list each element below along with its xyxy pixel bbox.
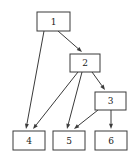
edge-line <box>92 72 102 86</box>
edge-2-to-5 <box>66 72 82 129</box>
edge-line <box>78 110 98 126</box>
graph-diagram: 123456 <box>0 0 137 157</box>
edge-1-to-4 <box>25 31 44 129</box>
edge-line <box>58 31 78 49</box>
edge-3-to-5 <box>74 110 98 129</box>
arrow-head-icon <box>109 124 113 129</box>
node-label-4: 4 <box>26 136 32 146</box>
node-4[interactable]: 4 <box>13 131 45 150</box>
node-label-6: 6 <box>108 136 114 146</box>
edge-2-to-3 <box>92 72 105 90</box>
edge-line <box>68 72 82 124</box>
nodes-layer: 123456 <box>13 12 127 150</box>
node-1[interactable]: 1 <box>37 12 70 31</box>
node-label-2: 2 <box>82 58 88 68</box>
edge-2-to-4 <box>33 72 78 129</box>
arrow-head-icon <box>100 85 105 90</box>
arrow-head-icon <box>66 123 70 129</box>
edge-line <box>27 31 44 124</box>
node-label-1: 1 <box>51 17 57 27</box>
edges-layer <box>25 31 113 129</box>
node-6[interactable]: 6 <box>95 131 127 150</box>
node-label-3: 3 <box>108 96 114 106</box>
node-5[interactable]: 5 <box>53 131 85 150</box>
node-label-5: 5 <box>66 136 72 146</box>
node-2[interactable]: 2 <box>70 54 100 72</box>
edge-line <box>36 72 78 125</box>
arrow-head-icon <box>25 124 29 129</box>
graph-canvas: 123456 <box>0 0 137 157</box>
edge-1-to-2 <box>58 31 82 52</box>
edge-3-to-6 <box>109 110 113 129</box>
node-3[interactable]: 3 <box>95 92 126 110</box>
